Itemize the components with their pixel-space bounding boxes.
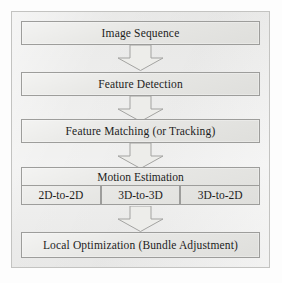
- node-local-optimization-label: Local Optimization (Bundle Adjustment): [22, 233, 259, 252]
- method-cell-2d-to-2d: 2D-to-2D: [21, 186, 101, 204]
- node-image-sequence-label: Image Sequence: [22, 22, 259, 40]
- method-cell-3d-to-2d: 3D-to-2D: [180, 186, 260, 204]
- flowchart: Image Sequence Feature Detection Feature…: [21, 21, 260, 258]
- node-motion-estimation: Motion Estimation 2D-to-2D 3D-to-3D 3D-t…: [21, 167, 260, 205]
- node-feature-detection: Feature Detection: [21, 72, 260, 96]
- node-image-sequence: Image Sequence: [21, 21, 260, 45]
- node-motion-estimation-label: Motion Estimation: [22, 168, 259, 185]
- down-block-arrow-icon: [117, 45, 164, 71]
- diagram-page: Image Sequence Feature Detection Feature…: [0, 0, 282, 283]
- node-feature-detection-label: Feature Detection: [22, 73, 259, 91]
- method-cell-3d-to-3d: 3D-to-3D: [101, 186, 181, 204]
- node-local-optimization: Local Optimization (Bundle Adjustment): [21, 232, 260, 258]
- motion-estimation-methods-row: 2D-to-2D 3D-to-3D 3D-to-2D: [21, 185, 260, 205]
- down-block-arrow-icon: [117, 206, 164, 232]
- node-feature-matching-label: Feature Matching (or Tracking): [22, 120, 259, 138]
- down-block-arrow-icon: [117, 143, 164, 169]
- node-feature-matching: Feature Matching (or Tracking): [21, 119, 260, 143]
